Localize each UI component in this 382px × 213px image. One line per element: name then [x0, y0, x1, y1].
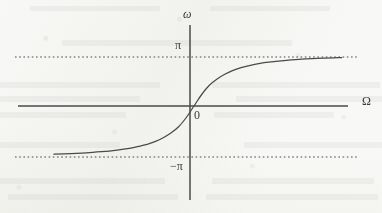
figure-canvas: ω π 0 −π Ω [0, 0, 382, 213]
x-axis-label-omega-capital: Ω [362, 95, 371, 107]
y-tick-label-pi: π [175, 39, 181, 51]
y-axis-label-omega: ω [183, 8, 191, 20]
plot-drawing [0, 0, 382, 213]
y-tick-label-negative-pi: −π [170, 160, 183, 172]
origin-label-zero: 0 [194, 109, 200, 121]
